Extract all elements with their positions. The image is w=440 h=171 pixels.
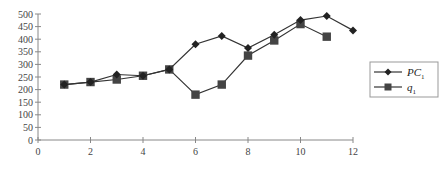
diamond-marker-icon (244, 44, 252, 52)
x-tick-label: 12 (348, 146, 358, 157)
y-axis: 050100150200250300350400450500 (18, 9, 41, 146)
x-tick-label: 8 (246, 146, 251, 157)
line-chart: 050100150200250300350400450500 024681012… (0, 0, 440, 171)
y-tick-label: 100 (18, 109, 33, 120)
y-tick-label: 300 (18, 59, 33, 70)
x-tick-label: 4 (141, 146, 146, 157)
square-marker-icon (385, 84, 392, 91)
y-tick-label: 400 (18, 34, 33, 45)
square-marker-icon (191, 90, 199, 98)
legend: PC1q1 (370, 62, 438, 97)
diamond-marker-icon (218, 32, 226, 40)
x-tick-label: 6 (193, 146, 198, 157)
x-axis: 024681012 (36, 137, 359, 157)
x-tick-label: 0 (36, 146, 41, 157)
y-tick-label: 50 (23, 122, 33, 133)
y-tick-label: 500 (18, 9, 33, 20)
y-tick-label: 350 (18, 46, 33, 57)
y-tick-label: 200 (18, 84, 33, 95)
series-layer (60, 12, 357, 99)
y-tick-label: 250 (18, 72, 33, 83)
diamond-marker-icon (349, 26, 357, 34)
square-marker-icon (323, 32, 331, 40)
x-tick-label: 10 (296, 146, 306, 157)
y-tick-label: 450 (18, 21, 33, 32)
x-tick-label: 2 (88, 146, 93, 157)
square-marker-icon (244, 51, 252, 59)
series-q1 (60, 20, 331, 99)
square-marker-icon (218, 80, 226, 88)
series-PC1 (60, 12, 357, 89)
y-tick-label: 0 (28, 135, 33, 146)
y-tick-label: 150 (18, 97, 33, 108)
legend-box (370, 62, 438, 97)
diamond-marker-icon (323, 12, 331, 20)
